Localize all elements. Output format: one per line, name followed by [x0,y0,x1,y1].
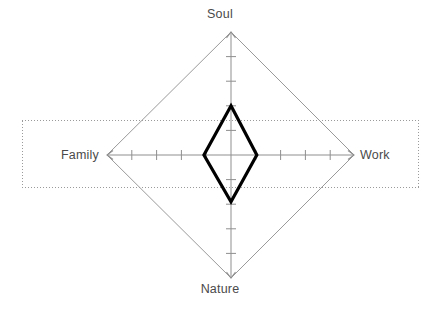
axis-label-soul: Soul [0,8,440,21]
axis-label-family: Family [0,149,99,162]
chart-canvas: Soul Work Nature Family [0,0,440,315]
axis-label-work: Work [360,149,390,162]
axis-label-nature: Nature [0,283,440,296]
axis-lines [107,32,354,278]
